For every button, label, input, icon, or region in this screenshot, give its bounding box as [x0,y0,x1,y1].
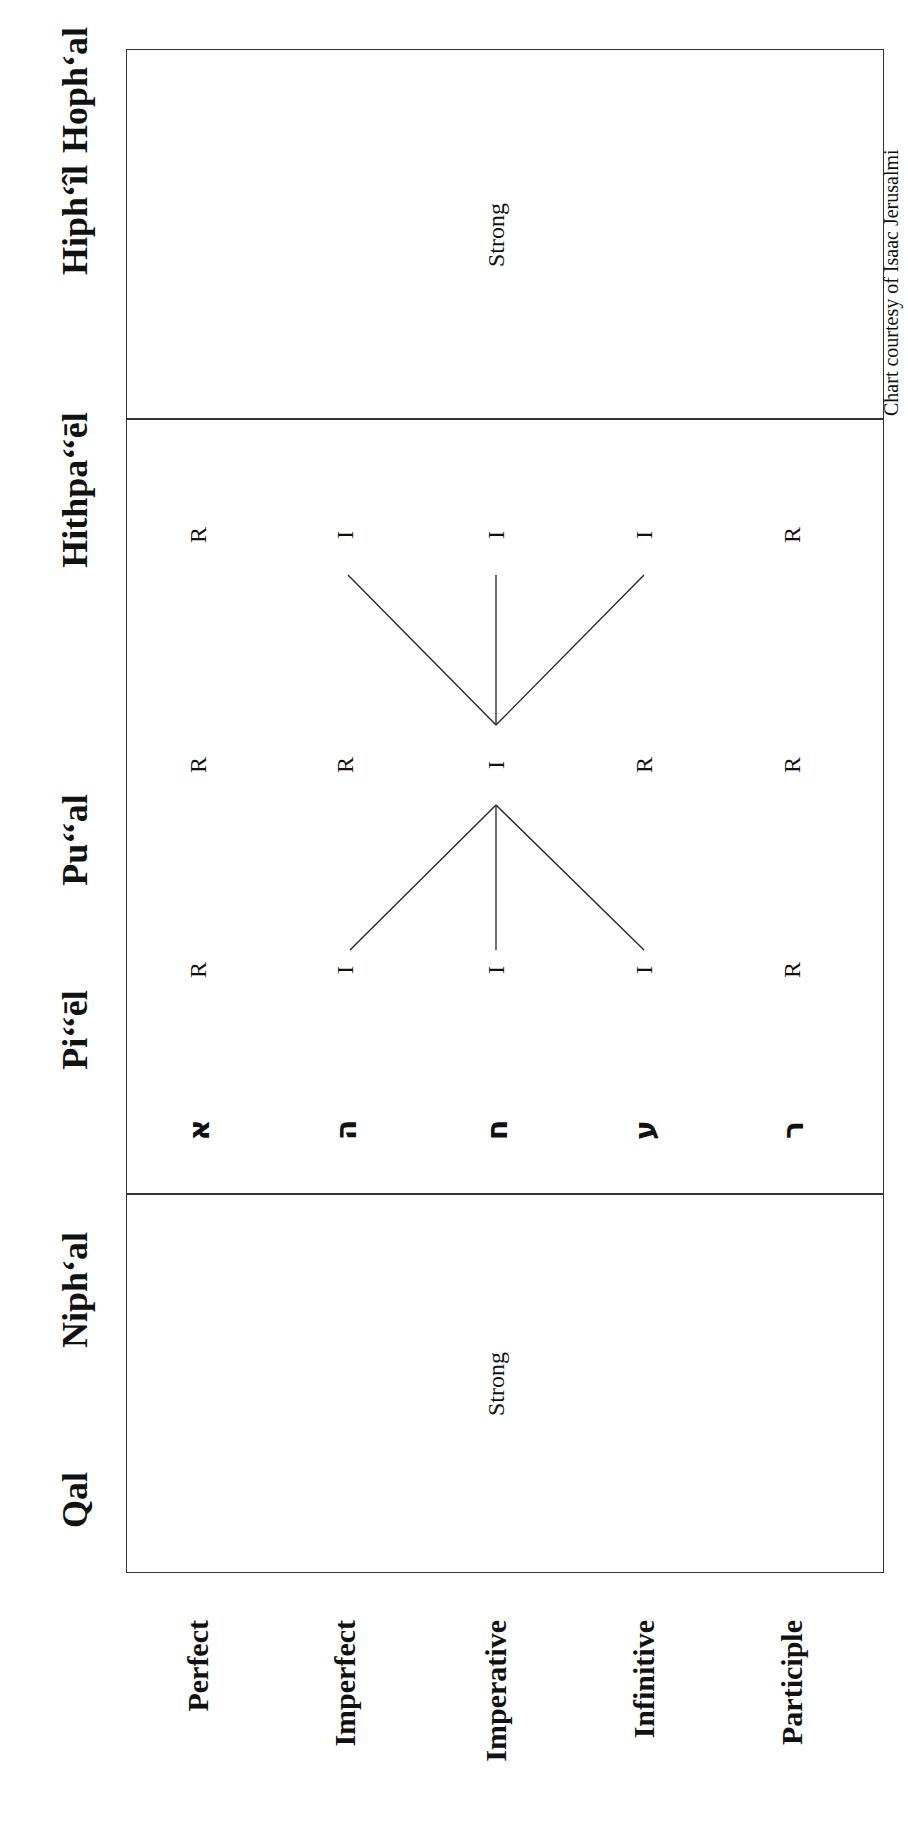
chart-credit: Chart courtesy of Isaac Jerusalmi [880,149,903,416]
connector-lines [0,0,908,1842]
rotated-chart: Qal Niph‘al Pi‘‘ēl Pu‘‘al Hithpa‘‘ēl Hip… [0,0,908,1842]
